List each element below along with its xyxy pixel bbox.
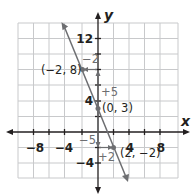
- x-tick-neg8: −8: [26, 141, 44, 155]
- annotation-rise-pos5: +5: [101, 85, 118, 99]
- point-label-c: (2, −2): [120, 146, 161, 160]
- point-label-a: (−2, 8): [41, 63, 82, 77]
- point-b: [96, 106, 101, 111]
- x-axis-label: x: [180, 113, 191, 129]
- annotation-run-neg2: −2: [82, 52, 99, 66]
- y-axis-label: y: [104, 7, 114, 23]
- y-tick-12: 12: [76, 32, 93, 46]
- point-label-b: (0, 3): [102, 101, 133, 115]
- annotation-fall-neg5: −5: [79, 133, 96, 147]
- coordinate-graph: −8 −4 4 8 12 4 −4 y x (−2, 8) (0, 3) (2,…: [0, 0, 193, 195]
- y-tick-neg4: −4: [76, 156, 94, 170]
- y-tick-4: 4: [85, 94, 93, 108]
- annotation-run-pos2: +2: [98, 150, 115, 164]
- x-tick-neg4: −4: [55, 141, 73, 155]
